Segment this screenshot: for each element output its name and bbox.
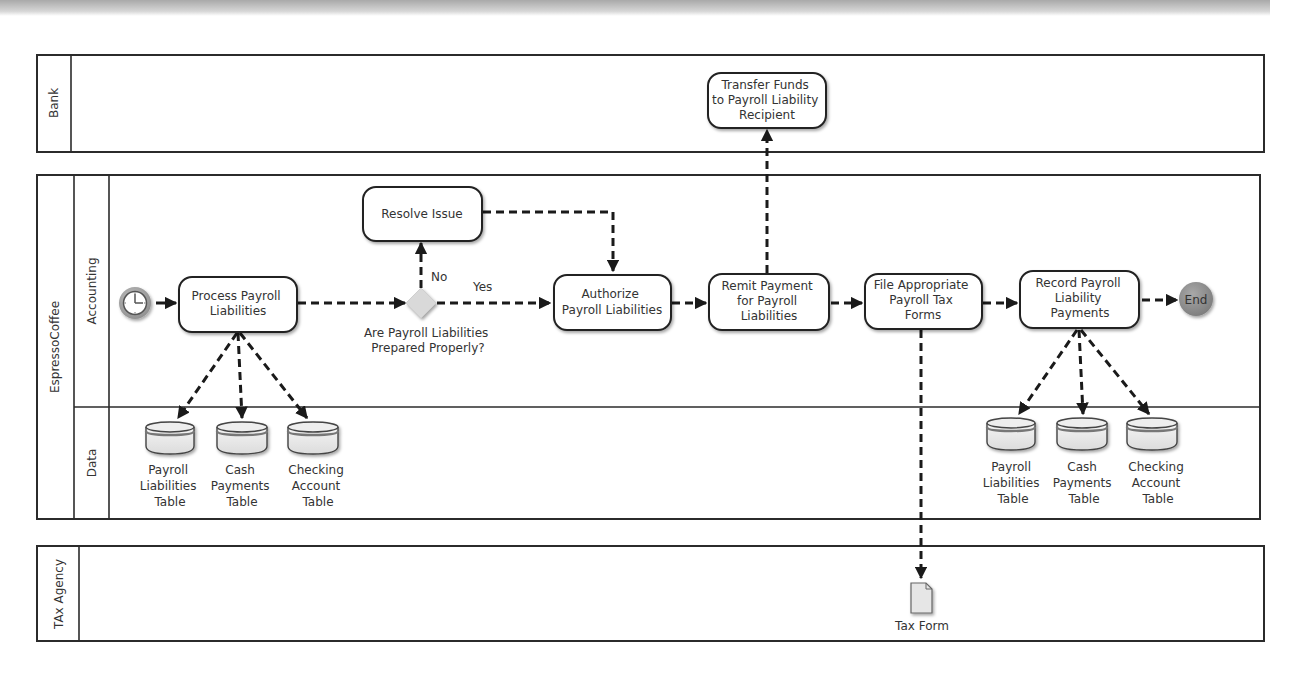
datastore-cash-payments-left[interactable]: Cash Payments Table (211, 422, 274, 509)
gateway-question: Are Payroll Liabilities Prepared Properl… (364, 326, 492, 355)
clock-timer-icon (124, 292, 147, 315)
database-icon (1057, 418, 1107, 450)
datastore-payroll-liabilities-left[interactable]: Payroll Liabilities Table (140, 422, 201, 509)
bpmn-diagram: Bank EspressoCoffee Accounting Data TAx … (0, 0, 1294, 675)
task-file-payroll-tax-forms[interactable]: File Appropriate Payroll Tax Forms (865, 274, 982, 329)
pool-bank-label: Bank (47, 88, 61, 118)
gateway-no-label: No (431, 270, 447, 284)
datastore-label: Cash Payments Table (211, 463, 274, 509)
flow-resolve-to-authorize (483, 212, 613, 271)
document-icon (911, 583, 932, 613)
assoc-process-to-checking-table (240, 333, 307, 418)
task-authorize-payroll-liabilities[interactable]: Authorize Payroll Liabilities (554, 275, 671, 330)
datastore-checking-account-left[interactable]: Checking Account Table (288, 422, 348, 509)
task-process-payroll-liabilities[interactable]: Process Payroll Liabilities (179, 277, 297, 332)
end-event-label: End (1185, 293, 1208, 307)
database-icon (987, 418, 1035, 450)
datastore-label: Cash Payments Table (1053, 460, 1116, 506)
assoc-process-to-cash-table (238, 333, 242, 418)
datastore-cash-payments-right[interactable]: Cash Payments Table (1053, 418, 1116, 506)
task-record-payroll-payments[interactable]: Record Payroll Liability Payments (1020, 271, 1139, 328)
lane-data-label: Data (85, 449, 99, 478)
sequence-flows (156, 130, 1177, 578)
tax-form-label: Tax Form (894, 619, 949, 633)
database-icon (1127, 418, 1177, 450)
datastore-label: Payroll Liabilities Table (983, 460, 1044, 506)
assoc-process-to-payroll-table (178, 333, 237, 418)
datastore-payroll-liabilities-right[interactable]: Payroll Liabilities Table (983, 418, 1044, 506)
pool-espressocoffee-label: EspressoCoffee (48, 301, 62, 393)
task-resolve-issue[interactable]: Resolve Issue (363, 187, 482, 241)
datastore-label: Payroll Liabilities Table (140, 463, 201, 509)
assoc-record-to-checking-table (1081, 330, 1149, 414)
data-object-tax-form[interactable]: Tax Form (894, 583, 949, 633)
end-event[interactable]: End (1179, 282, 1213, 316)
pool-tax-agency: TAx Agency (37, 546, 1264, 641)
task-resolve-issue-label: Resolve Issue (381, 207, 462, 221)
datastore-label: Checking Account Table (288, 463, 347, 509)
gateway-payroll-check[interactable]: Are Payroll Liabilities Prepared Properl… (364, 270, 492, 355)
assoc-record-to-payroll-table (1019, 330, 1077, 414)
task-remit-payment[interactable]: Remit Payment for Payroll Liabilities (709, 274, 829, 330)
pool-tax-agency-label: TAx Agency (52, 559, 66, 630)
database-icon (217, 422, 267, 454)
assoc-record-to-cash-table (1079, 330, 1083, 414)
gateway-yes-label: Yes (472, 280, 492, 294)
datastore-label: Checking Account Table (1128, 460, 1187, 506)
database-icon (288, 422, 338, 454)
lane-accounting-label: Accounting (85, 257, 99, 324)
database-icon (146, 422, 194, 454)
start-event[interactable] (119, 287, 151, 319)
pool-bank: Bank (37, 55, 1264, 152)
datastore-checking-account-right[interactable]: Checking Account Table (1127, 418, 1188, 506)
task-transfer-funds[interactable]: Transfer Funds to Payroll Liability Reci… (708, 73, 826, 128)
